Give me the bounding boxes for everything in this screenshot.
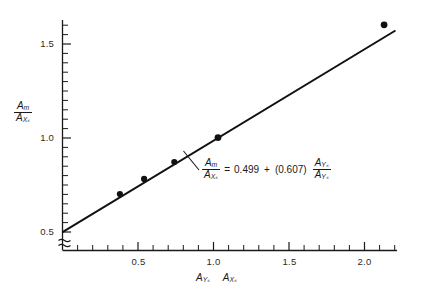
y-tick-label-0-5: 0.5: [24, 226, 54, 237]
equation-lhs-fraction: Am AXₛ: [202, 158, 220, 181]
x-major-ticks: [138, 242, 365, 251]
equation-rhs-fraction: AYₛ AYₛ: [313, 158, 331, 181]
equation-rhs-denominator: AYₛ: [313, 169, 331, 181]
x-first-symbol: A: [196, 272, 203, 283]
y-den-symbol: A: [16, 112, 23, 123]
regression-line: [63, 31, 396, 233]
x-second-subscript: Xₛ: [229, 276, 237, 283]
y-axis-label-fraction: Am AXₛ: [14, 101, 32, 124]
y-num-symbol: A: [17, 100, 24, 111]
equation-intercept-value: 0.499: [234, 164, 259, 175]
data-point: [141, 176, 147, 182]
equation-lhs-denominator: AXₛ: [202, 169, 220, 181]
data-point: [381, 21, 388, 28]
y-tick-label-1-5: 1.5: [24, 38, 54, 49]
chart-figure: 1.5 1.0 0.5 0.5 1.0 1.5 2.0 Am AXₛ AYₛ A…: [0, 0, 422, 297]
x-tick-label-2-0: 2.0: [352, 256, 377, 267]
y-axis-label: Am AXₛ: [14, 101, 32, 124]
eq-lhs-den-subscript: Xₛ: [211, 173, 219, 180]
y-axis-label-denominator: AXₛ: [14, 112, 32, 124]
scatter-plot-canvas: [0, 0, 422, 297]
x-tick-label-0-5: 0.5: [126, 256, 151, 267]
equation-rhs-numerator: AYₛ: [313, 158, 331, 169]
data-point: [215, 134, 222, 141]
axis-lines: [63, 20, 398, 251]
y-num-subscript: m: [24, 104, 30, 111]
equation-plus-sign: +: [264, 164, 270, 175]
x-first-subscript: Yₛ: [203, 276, 211, 283]
equation-slope-value: (0.607): [275, 164, 307, 175]
x-minor-ticks: [78, 245, 395, 251]
y-tick-label-1-0: 1.0: [24, 132, 54, 143]
eq-lhs-num-symbol: A: [205, 157, 212, 168]
y-axis-break-icon: [59, 239, 71, 246]
x-axis-label: AYₛ AXₛ: [196, 272, 237, 284]
eq-rhs-den-subscript: Yₛ: [321, 173, 329, 180]
eq-lhs-den-symbol: A: [204, 169, 211, 180]
equation-equals-sign: =: [224, 164, 230, 175]
x-tick-label-1-0: 1.0: [201, 256, 226, 267]
x-axis-label-first-term: AYₛ: [196, 272, 210, 283]
x-axis-label-second-term: AXₛ: [223, 272, 237, 283]
y-den-subscript: Xₛ: [23, 116, 31, 123]
y-minor-ticks: [63, 25, 69, 222]
eq-rhs-num-subscript: Yₛ: [321, 161, 329, 168]
equation-lhs-numerator: Am: [202, 158, 220, 169]
regression-equation-annotation: Am AXₛ = 0.499 + (0.607) AYₛ AYₛ: [202, 158, 331, 181]
data-point: [117, 191, 123, 197]
data-point: [171, 159, 177, 165]
x-tick-label-1-5: 1.5: [277, 256, 302, 267]
eq-lhs-num-subscript: m: [212, 161, 218, 168]
y-axis-label-numerator: Am: [14, 101, 32, 112]
